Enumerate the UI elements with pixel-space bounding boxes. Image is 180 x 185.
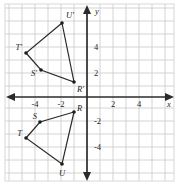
figure-background: [0, 0, 180, 185]
vertex-r-prime: [72, 80, 76, 84]
y-tick-2: 2: [94, 68, 98, 78]
label-r: R: [76, 103, 83, 113]
vertex-r: [72, 110, 76, 114]
label-t-prime: T': [15, 42, 22, 52]
x-axis-label: x: [166, 99, 171, 109]
vertex-t-prime: [24, 51, 28, 55]
vertex-u-prime: [60, 21, 64, 25]
vertex-t: [24, 136, 28, 140]
label-u-prime: U': [66, 10, 74, 20]
coordinate-plane-figure: x y -4 -2 2 4 4 2 -2 -4 U' T' S' R' R S: [0, 0, 180, 185]
label-s-prime: S': [31, 68, 37, 78]
x-tick-minus-2: -2: [57, 99, 64, 109]
vertex-s-prime: [39, 68, 43, 72]
y-tick-minus-4: -4: [94, 142, 102, 152]
coordinate-plot: x y -4 -2 2 4 4 2 -2 -4 U' T' S' R' R S: [0, 0, 180, 185]
x-tick-minus-4: -4: [31, 99, 39, 109]
y-tick-minus-2: -2: [94, 116, 101, 126]
label-r-prime: R': [76, 84, 84, 94]
y-axis-label: y: [94, 6, 99, 16]
vertex-s: [38, 120, 42, 124]
x-tick-2: 2: [111, 99, 115, 109]
vertex-u: [60, 162, 64, 166]
label-u: U: [59, 168, 66, 178]
